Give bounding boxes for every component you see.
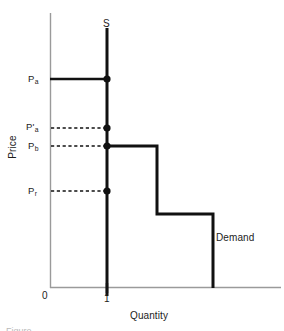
axis-origin-label: 0 [42,291,48,301]
chart-canvas [0,0,284,331]
figure-caption-partial: Figure [0,326,284,331]
demand-curve-label: Demand [216,233,254,243]
price-point-pb [103,142,110,149]
price-point-pr [103,187,110,194]
price-label-pa: Pa [28,74,38,84]
supply-curve-label: S [103,19,110,29]
price-label-pb: Pb [28,141,38,151]
demand-curve [107,146,213,288]
x-tick-label-1: 1 [104,294,110,304]
y-axis-title: Price [8,125,18,169]
x-axis-title: Quantity [130,311,168,321]
supply-demand-figure: Pa P'a Pb Pr S Demand 0 1 Quantity Price… [0,0,284,331]
price-label-pa-prime: P'a [26,122,38,132]
price-point-pa [103,75,110,82]
price-point-pa-prime [103,124,110,131]
price-label-pr: Pr [28,186,37,196]
